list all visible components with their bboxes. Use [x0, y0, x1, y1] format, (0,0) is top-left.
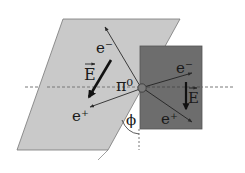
plane-edge-extension — [98, 150, 108, 160]
pion-vertex — [138, 84, 146, 92]
label-left-field: E — [84, 65, 96, 84]
label-right-field: E — [188, 89, 199, 107]
label-left-electron: e⁻ — [96, 39, 113, 57]
label-angle-phi: ϕ — [126, 111, 136, 129]
label-right-electron: e⁻ — [176, 59, 193, 77]
label-left-positron: e⁺ — [72, 107, 89, 125]
label-right-positron: e⁺ — [161, 110, 178, 128]
label-pion: π⁰ — [116, 76, 133, 95]
pion-decay-diagram: e⁻ E π⁰ e⁺ ϕ e⁻ E e⁺ — [0, 0, 245, 173]
